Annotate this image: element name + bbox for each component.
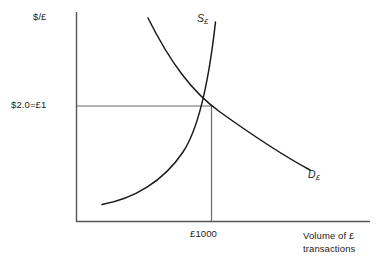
y-axis-title: $/£: [33, 11, 47, 23]
demand-curve-label: D£: [308, 168, 320, 182]
demand-curve: [148, 18, 310, 170]
supply-curve-label: S£: [197, 12, 208, 26]
quantity-tick-label: £1000: [190, 228, 217, 240]
supply-curve-subscript: £: [204, 17, 208, 26]
x-axis-title-line1: Volume of £: [303, 229, 355, 242]
x-axis-title-line2: transactions: [303, 242, 355, 255]
supply-demand-chart: $/£ $2.0=£1 £1000 Volume of £ transactio…: [0, 0, 382, 270]
price-tick-label: $2.0=£1: [11, 99, 46, 111]
supply-curve: [102, 22, 216, 205]
demand-curve-subscript: £: [316, 173, 320, 182]
x-axis-title: Volume of £ transactions: [303, 229, 355, 255]
demand-curve-letter: D: [308, 168, 316, 180]
